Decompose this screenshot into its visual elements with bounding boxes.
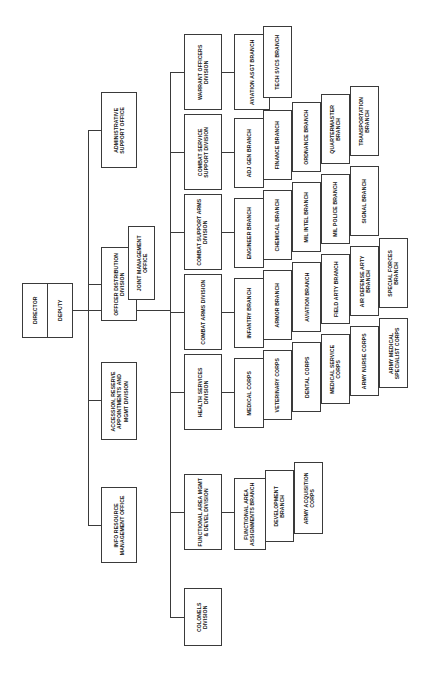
connector-stub-combat-support-arms — [170, 232, 184, 233]
node-veterinary-corps-label: VETERINARY CORPS — [274, 358, 280, 412]
node-ordnance-branch[interactable]: ORDNANCE BRANCH — [292, 102, 321, 172]
connector-csa-to-branches — [222, 232, 234, 233]
connector-root-to-lower-offices — [88, 310, 89, 525]
connector-css-to-branches — [222, 152, 234, 153]
node-health-services-division[interactable]: HEALTH SERVICESDIVISION — [184, 354, 222, 430]
node-adj-gen-branch-label: ADJ GEN BRANCH — [246, 129, 252, 177]
node-engineer-branch-label: ENGINEER BRANCH — [246, 207, 252, 259]
connector-warrant-to-branches — [222, 72, 234, 73]
org-chart-canvas: DIRECTOR DEPUTY ADMINISTRATIVESUPPORT OF… — [0, 0, 428, 678]
node-chemical-branch-label: CHEMICAL BRANCH — [274, 199, 280, 252]
connector-fa-to-branches — [222, 512, 234, 513]
connector-stub-officer-distribution — [88, 284, 102, 285]
connector-stub-functional-area — [170, 512, 184, 513]
connector-stub-combat-service-support — [170, 152, 184, 153]
node-mil-intel-branch[interactable]: MIL INTEL BRANCH — [292, 182, 321, 252]
connector-stub-administrative-support — [88, 130, 102, 131]
node-functional-area-mgmt-devel-division-label: FUNCTIONAL AREA MGMT& DEVEL DIVISION — [197, 478, 210, 546]
node-combat-service-support-division[interactable]: COMBAT SERVICESUPPORT DIVISION — [184, 114, 222, 190]
node-mil-intel-branch-label: MIL INTEL BRANCH — [303, 192, 309, 243]
connector-stub-info-resource — [88, 525, 102, 526]
node-signal-branch[interactable]: SIGNAL BRANCH — [350, 166, 379, 236]
node-transportation-branch-label: TRANSPORTATIONBRANCH — [358, 97, 371, 146]
node-administrative-support-office[interactable]: ADMINISTRATIVESUPPORT OFFICE — [101, 92, 137, 168]
node-combat-support-arms-division[interactable]: COMBAT SUPPORT ARMSDIVISION — [184, 194, 222, 270]
node-accession-reserve-division[interactable]: ACCESSION, RESERVEAPPOINTMENTS ANDMGMT D… — [101, 362, 137, 440]
node-colonels-division[interactable]: COLONELSDIVISION — [184, 588, 222, 646]
node-info-resource-management-office[interactable]: INFO RESOURCEMANAGEMENT OFFICE — [101, 487, 137, 563]
node-special-forces-branch-label: SPECIAL FORCESBRANCH — [387, 250, 400, 297]
connector-stub-health-services — [170, 392, 184, 393]
node-development-branch-label: DEVELOPMENTBRANCH — [273, 486, 286, 526]
node-armor-branch-label: ARMOR BRANCH — [274, 283, 280, 328]
node-functional-area-assignments-branch-label: FUNCTIONAL AREAASSIGNMENTS BRANCH — [244, 482, 257, 546]
node-veterinary-corps[interactable]: VETERINARY CORPS — [263, 350, 292, 420]
node-tech-svcs-branch-label: TECH SVCS BRANCH — [274, 34, 280, 89]
node-army-nurse-corps[interactable]: ARMY NURSE CORPS — [350, 326, 379, 396]
node-engineer-branch[interactable]: ENGINEER BRANCH — [234, 198, 264, 268]
node-ordnance-branch-label: ORDNANCE BRANCH — [303, 109, 309, 164]
node-deputy-label: DEPUTY — [57, 300, 63, 322]
node-deputy[interactable]: DEPUTY — [47, 283, 73, 338]
node-mil-police-branch[interactable]: MIL POLICE BRANCH — [321, 174, 350, 244]
node-field-arty-branch[interactable]: FIELD ARTY BRANCH — [321, 254, 350, 324]
node-medical-service-corps-label: MEDICAL SERVICECORPS — [329, 344, 342, 393]
node-army-acquisition-corps-label: ARMY ACQUISITIONCORPS — [302, 472, 315, 524]
node-development-branch[interactable]: DEVELOPMENTBRANCH — [265, 470, 294, 542]
node-air-defense-arty-branch-label: AIR DEFENSE ARTYBRANCH — [358, 255, 371, 307]
node-warrant-officers-division-label: WARRANT OFFICERSDIVISION — [197, 44, 210, 100]
node-medical-corps-label: MEDICAL CORPS — [246, 371, 252, 416]
connector-stub-colonels — [170, 617, 184, 618]
node-adj-gen-branch[interactable]: ADJ GEN BRANCH — [234, 118, 264, 188]
node-armor-branch[interactable]: ARMOR BRANCH — [263, 270, 292, 340]
node-quartermaster-branch[interactable]: QUARTERMASTERBRANCH — [321, 94, 350, 164]
node-combat-service-support-division-label: COMBAT SERVICESUPPORT DIVISION — [197, 127, 210, 178]
node-army-nurse-corps-label: ARMY NURSE CORPS — [361, 333, 367, 389]
node-officer-distribution-division-label: OFFICER DISTRIBUTIONDIVISION — [113, 253, 126, 316]
connector-hs-to-branches — [222, 392, 234, 393]
node-special-forces-branch[interactable]: SPECIAL FORCESBRANCH — [379, 238, 408, 308]
node-joint-management-office-label: JOINT MANAGEMENTOFFICE — [135, 235, 148, 291]
node-infantry-branch-label: INFANTRY BRANCH — [246, 288, 252, 339]
node-info-resource-management-office-label: INFO RESOURCEMANAGEMENT OFFICE — [113, 495, 126, 555]
node-army-medical-specialist-corps-label: ARMY MEDICALSPECIALIST CORPS — [387, 327, 400, 379]
node-army-acquisition-corps[interactable]: ARMY ACQUISITIONCORPS — [294, 462, 323, 534]
node-aviation-asgt-branch-label: AVIATION ASGT BRANCH — [249, 39, 255, 104]
connector-division-spine — [170, 72, 171, 617]
connector-stub-accession — [88, 400, 102, 401]
node-combat-arms-division[interactable]: COMBAT ARMS DIVISION — [184, 274, 222, 350]
node-dental-corps[interactable]: DENTAL CORPS — [292, 342, 321, 412]
node-joint-management-office[interactable]: JOINT MANAGEMENTOFFICE — [128, 226, 155, 300]
node-field-arty-branch-label: FIELD ARTY BRANCH — [332, 261, 338, 317]
node-quartermaster-branch-label: QUARTERMASTERBRANCH — [329, 105, 342, 154]
node-combat-support-arms-division-label: COMBAT SUPPORT ARMSDIVISION — [197, 198, 210, 265]
node-mil-police-branch-label: MIL POLICE BRANCH — [332, 181, 338, 236]
node-warrant-officers-division[interactable]: WARRANT OFFICERSDIVISION — [184, 34, 222, 110]
node-functional-area-mgmt-devel-division[interactable]: FUNCTIONAL AREA MGMT& DEVEL DIVISION — [184, 474, 222, 550]
node-signal-branch-label: SIGNAL BRANCH — [361, 179, 367, 224]
node-medical-corps[interactable]: MEDICAL CORPS — [234, 358, 264, 428]
node-chemical-branch[interactable]: CHEMICAL BRANCH — [263, 190, 292, 260]
node-finance-branch[interactable]: FINANCE BRANCH — [263, 110, 292, 180]
connector-stub-warrant-officers — [170, 72, 184, 73]
node-transportation-branch[interactable]: TRANSPORTATIONBRANCH — [350, 86, 379, 156]
connector-ca-to-branches — [222, 312, 234, 313]
node-tech-svcs-branch[interactable]: TECH SVCS BRANCH — [263, 26, 292, 98]
node-director[interactable]: DIRECTOR — [22, 283, 48, 338]
node-medical-service-corps[interactable]: MEDICAL SERVICECORPS — [321, 334, 350, 404]
node-colonels-division-label: COLONELSDIVISION — [197, 602, 210, 632]
node-finance-branch-label: FINANCE BRANCH — [274, 121, 280, 169]
node-health-services-division-label: HEALTH SERVICESDIVISION — [197, 367, 210, 417]
node-administrative-support-office-label: ADMINISTRATIVESUPPORT OFFICE — [113, 107, 126, 154]
node-army-medical-specialist-corps[interactable]: ARMY MEDICALSPECIALIST CORPS — [379, 318, 408, 388]
node-infantry-branch[interactable]: INFANTRY BRANCH — [234, 278, 264, 348]
node-accession-reserve-division-label: ACCESSION, RESERVEAPPOINTMENTS ANDMGMT D… — [110, 371, 129, 431]
node-dental-corps-label: DENTAL CORPS — [303, 356, 309, 398]
connector-stub-combat-arms — [170, 312, 184, 313]
node-functional-area-assignments-branch[interactable]: FUNCTIONAL AREAASSIGNMENTS BRANCH — [234, 478, 266, 550]
node-air-defense-arty-branch[interactable]: AIR DEFENSE ARTYBRANCH — [350, 246, 379, 316]
node-aviation-branch-label: AVIATION BRANCH — [303, 272, 309, 321]
node-director-label: DIRECTOR — [32, 297, 38, 325]
node-combat-arms-division-label: COMBAT ARMS DIVISION — [200, 280, 206, 345]
node-aviation-branch[interactable]: AVIATION BRANCH — [292, 262, 321, 332]
